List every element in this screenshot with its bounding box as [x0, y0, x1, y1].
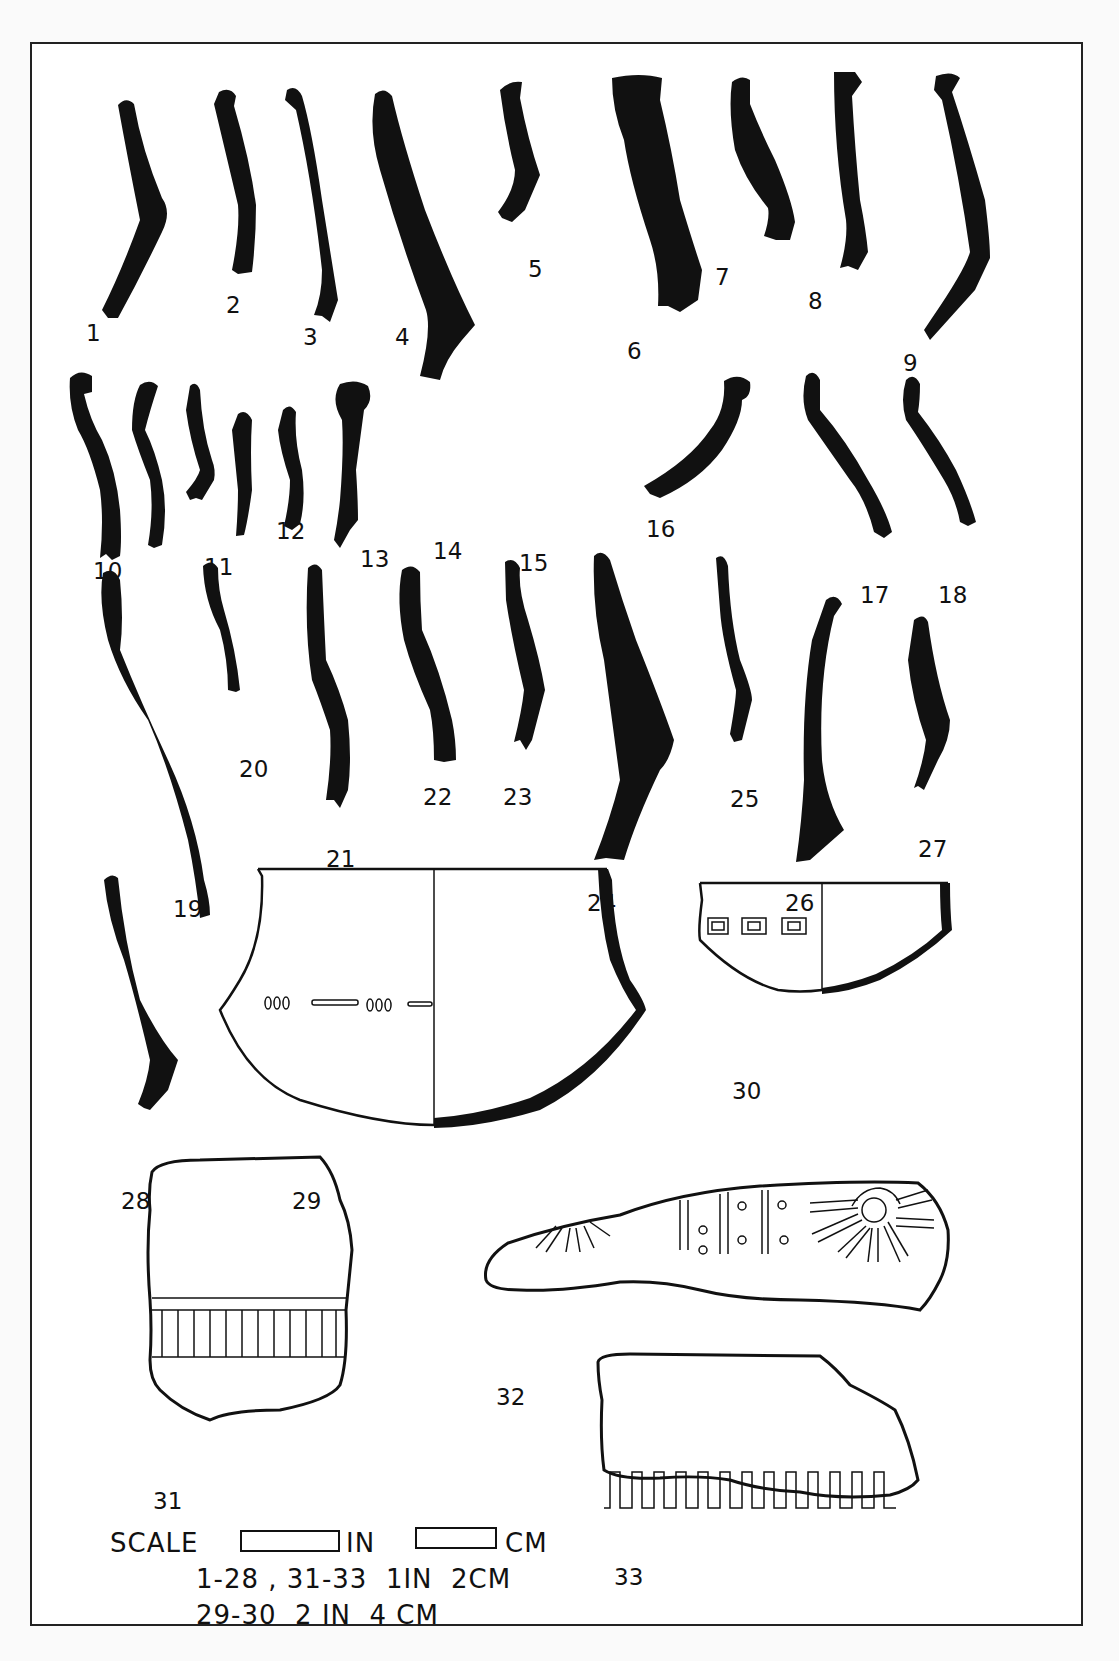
scale-title: SCALE	[110, 1530, 198, 1556]
sherd-33	[598, 1354, 918, 1497]
sherd-32	[485, 1182, 948, 1310]
sherd-6	[612, 75, 702, 312]
vessel-29-decoration	[265, 997, 432, 1011]
sherd-17	[803, 373, 892, 538]
sherd-8	[834, 72, 868, 270]
sherd-20	[203, 562, 240, 692]
scale-unit-cm: CM	[505, 1530, 548, 1556]
label-29: 29	[292, 1190, 321, 1213]
scale-line-1: 1-28 , 31-33 1IN 2CM	[196, 1566, 511, 1592]
label-32: 32	[496, 1386, 525, 1409]
label-16: 16	[646, 518, 675, 541]
label-20: 20	[239, 758, 268, 781]
sherd-24	[594, 553, 674, 860]
label-31: 31	[153, 1490, 182, 1513]
label-25: 25	[730, 788, 759, 811]
sherd-2	[214, 90, 256, 274]
sherd-19	[101, 571, 210, 918]
sherd-4	[372, 90, 475, 380]
label-15: 15	[519, 552, 548, 575]
sherd-31-decoration	[152, 1298, 346, 1357]
sherd-5	[498, 82, 540, 222]
label-2: 2	[226, 294, 241, 317]
sherd-3	[285, 88, 338, 322]
sherd-9	[924, 73, 990, 340]
scale-unit-in: IN	[346, 1530, 375, 1556]
label-19: 19	[173, 898, 202, 921]
scale-bar-cm	[415, 1527, 497, 1549]
label-12: 12	[276, 520, 305, 543]
label-18: 18	[938, 584, 967, 607]
label-13: 13	[360, 548, 389, 571]
label-8: 8	[808, 290, 823, 313]
sherd-32-decoration	[536, 1188, 934, 1262]
sherd-18	[903, 377, 976, 526]
label-3: 3	[303, 326, 318, 349]
label-14: 14	[433, 540, 462, 563]
label-24: 24	[587, 892, 616, 915]
vessel-30-decoration	[708, 918, 806, 934]
sherd-16	[644, 377, 750, 498]
label-26: 26	[785, 892, 814, 915]
sherd-1	[102, 100, 167, 318]
sherd-22	[399, 566, 456, 762]
label-27: 27	[918, 838, 947, 861]
label-22: 22	[423, 786, 452, 809]
label-23: 23	[503, 786, 532, 809]
pottery-drawings	[0, 0, 1119, 1661]
sherd-13	[232, 412, 252, 536]
scale-line-2: 29-30 2 IN 4 CM	[196, 1602, 439, 1628]
vessel-30	[699, 883, 948, 992]
sherd-27	[908, 616, 950, 790]
sherd-10	[70, 372, 121, 560]
label-6: 6	[627, 340, 642, 363]
scale-bar-inch	[240, 1530, 340, 1552]
label-7: 7	[715, 266, 730, 289]
sherd-21	[307, 564, 350, 808]
label-5: 5	[528, 258, 543, 281]
sherd-25	[716, 556, 752, 742]
label-10: 10	[93, 560, 122, 583]
sherd-31	[148, 1157, 352, 1420]
label-28: 28	[121, 1190, 150, 1213]
sherd-28	[104, 875, 178, 1110]
sherd-7	[731, 77, 795, 240]
sherd-23	[505, 560, 545, 750]
label-33: 33	[614, 1566, 643, 1589]
label-1: 1	[86, 322, 101, 345]
vessel-30-profile	[822, 883, 952, 994]
sherd-15	[334, 381, 370, 548]
label-9: 9	[903, 352, 918, 375]
label-11: 11	[204, 556, 233, 579]
label-17: 17	[860, 584, 889, 607]
label-21: 21	[326, 848, 355, 871]
sherd-14	[278, 406, 304, 530]
sherd-26	[796, 597, 844, 862]
label-30: 30	[732, 1080, 761, 1103]
sherd-11	[132, 382, 165, 548]
label-4: 4	[395, 326, 410, 349]
sherd-12	[186, 384, 215, 500]
